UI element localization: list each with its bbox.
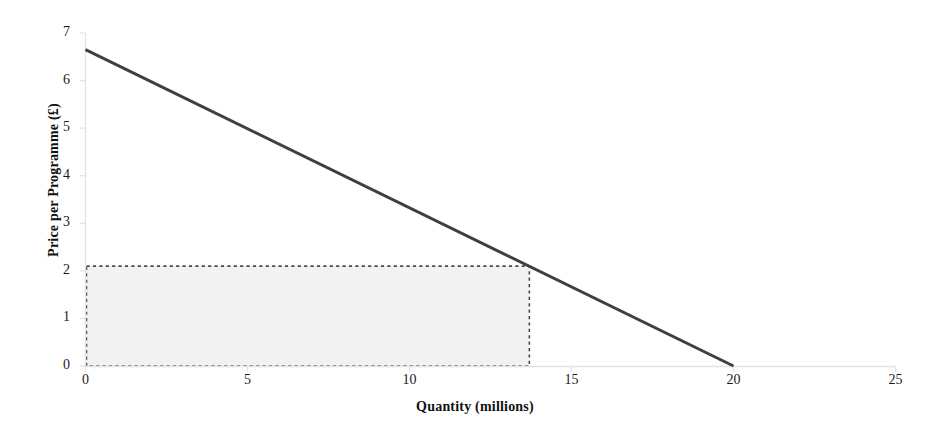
x-axis-ticks — [86, 367, 896, 373]
x-tick-label-5: 5 — [228, 372, 268, 388]
y-tick-label-3: 3 — [40, 214, 70, 230]
revenue-rectangle — [87, 266, 530, 366]
demand-curve-chart: Price per Programme (£) Quantity (millio… — [0, 0, 950, 438]
y-axis-ticks — [80, 33, 86, 366]
y-tick-label-5: 5 — [40, 119, 70, 135]
x-tick-label-15: 15 — [552, 372, 592, 388]
x-tick-label-0: 0 — [66, 372, 106, 388]
x-tick-label-25: 25 — [876, 372, 916, 388]
y-tick-label-6: 6 — [40, 72, 70, 88]
y-tick-label-7: 7 — [40, 24, 70, 40]
plot-area — [0, 0, 950, 438]
y-tick-label-0: 0 — [40, 357, 70, 373]
x-tick-label-10: 10 — [390, 372, 430, 388]
x-tick-label-20: 20 — [714, 372, 754, 388]
y-tick-label-1: 1 — [40, 309, 70, 325]
x-axis-title: Quantity (millions) — [0, 399, 950, 415]
y-tick-label-2: 2 — [40, 262, 70, 278]
y-tick-label-4: 4 — [40, 167, 70, 183]
